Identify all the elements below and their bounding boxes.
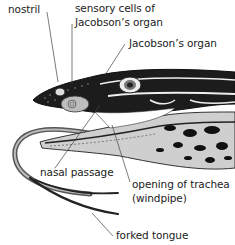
label-trachea-line1: opening of trachea	[132, 178, 230, 191]
nostril-drawing	[55, 88, 65, 96]
jacobsons-organ-drawing	[61, 96, 89, 112]
label-trachea-line2: (windpipe)	[132, 192, 187, 205]
diagram: nostril sensory cells of Jacobson’s orga…	[0, 0, 235, 245]
label-nostril: nostril	[8, 3, 40, 16]
label-sensory-cells-line1: sensory cells of	[75, 2, 155, 15]
label-jacobsons-organ: Jacobson’s organ	[129, 37, 217, 50]
label-nasal-passage: nasal passage	[40, 166, 114, 179]
label-sensory-cells-line2: Jacobson’s organ	[75, 16, 163, 29]
label-forked-tongue: forked tongue	[116, 229, 188, 242]
